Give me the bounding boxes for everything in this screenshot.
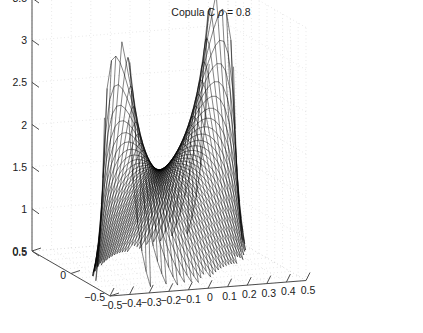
x-tick-label: 0.5 bbox=[301, 284, 316, 296]
plot-background bbox=[0, 0, 423, 333]
copula-3d-plot: 0.511.522.533.50.50−0.5−0.5−0.4−0.3−0.2−… bbox=[0, 0, 423, 333]
plot-title: Copula C ρ = 0.8 bbox=[171, 6, 250, 18]
z-tick-label: 3 bbox=[21, 34, 27, 46]
z-tick-label: 1.5 bbox=[12, 161, 27, 173]
x-tick-label: 0 bbox=[207, 291, 213, 303]
x-tick-label: −0.2 bbox=[160, 294, 181, 306]
figure-canvas: 0.511.522.533.50.50−0.5−0.5−0.4−0.3−0.2−… bbox=[0, 0, 423, 333]
z-tick-label: 2 bbox=[21, 119, 27, 131]
x-tick-label: 0.4 bbox=[281, 285, 296, 297]
x-tick-label: 0.2 bbox=[242, 288, 257, 300]
y-tick-label: 0.5 bbox=[12, 246, 27, 258]
x-tick-label: −0.1 bbox=[180, 293, 201, 305]
x-tick-label: −0.4 bbox=[121, 297, 142, 309]
x-tick-label: −0.3 bbox=[141, 296, 162, 308]
z-tick-label: 1 bbox=[21, 203, 27, 215]
y-tick-label: 0 bbox=[60, 269, 66, 281]
x-tick-label: 0.3 bbox=[261, 287, 276, 299]
x-tick-label: 0.1 bbox=[222, 290, 237, 302]
x-tick-label: −0.5 bbox=[102, 299, 123, 311]
z-tick-label: 2.5 bbox=[12, 76, 27, 88]
z-tick-label: 3.5 bbox=[12, 0, 27, 4]
